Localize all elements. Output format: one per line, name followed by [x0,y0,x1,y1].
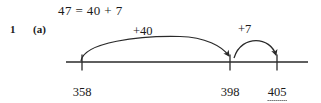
worksheet-canvas: 1 (a) 47 = 40 + 7 +40 +7 358 398 405 [0,0,321,103]
jump-arc-plus-7 [234,41,276,59]
jump-arc-plus-40 [81,36,229,61]
number-line-diagram [0,0,321,103]
